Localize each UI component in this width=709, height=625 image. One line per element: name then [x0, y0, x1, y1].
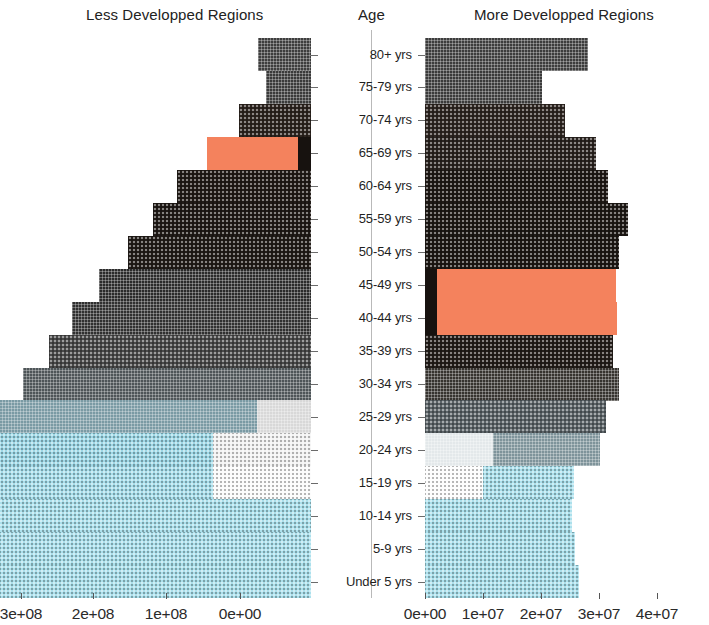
bar-left	[0, 400, 311, 433]
y-tick-left	[311, 252, 318, 253]
y-tick-right	[418, 186, 425, 187]
bar-right	[425, 203, 628, 236]
y-tick-right	[418, 516, 425, 517]
bar-right	[425, 368, 619, 401]
bar-left	[0, 532, 311, 565]
y-tick-left	[311, 153, 318, 154]
bar-segment	[493, 433, 600, 466]
bar-segment	[425, 71, 542, 104]
age-label: 35-39 yrs	[312, 343, 412, 358]
bar-segment	[239, 104, 311, 137]
y-tick-left	[311, 483, 318, 484]
bar-segment	[483, 466, 574, 499]
bar-segment	[258, 38, 311, 71]
bar-right	[425, 400, 606, 433]
bar-left	[128, 236, 311, 269]
age-label: 55-59 yrs	[312, 211, 412, 226]
age-label: 60-64 yrs	[312, 178, 412, 193]
age-label: 45-49 yrs	[312, 277, 412, 292]
right-axis-tick	[425, 593, 426, 599]
bar-segment	[425, 104, 565, 137]
bar-left	[0, 565, 311, 598]
bar-segment	[266, 71, 311, 104]
bar-segment	[0, 565, 311, 598]
age-label: 5-9 yrs	[312, 541, 412, 556]
bar-segment	[437, 302, 617, 335]
y-tick-right	[418, 153, 425, 154]
bar-segment	[72, 302, 311, 335]
y-tick-left	[311, 417, 318, 418]
right-axis-tick	[657, 593, 658, 599]
bar-left	[23, 368, 311, 401]
left-axis-tick	[21, 593, 22, 599]
bar-segment	[207, 137, 298, 170]
bar-segment	[0, 400, 257, 433]
y-tick-right	[418, 483, 425, 484]
bar-left	[266, 71, 311, 104]
right-axis-tick	[599, 593, 600, 599]
y-tick-right	[418, 285, 425, 286]
y-tick-right	[418, 384, 425, 385]
y-tick-right	[418, 351, 425, 352]
bar-segment	[99, 269, 311, 302]
left-panel-title: Less Developped Regions	[86, 6, 263, 23]
bar-segment	[425, 335, 613, 368]
y-tick-left	[311, 384, 318, 385]
bar-segment	[425, 400, 606, 433]
y-tick-left	[311, 549, 318, 550]
bar-left	[72, 302, 311, 335]
bar-segment	[177, 170, 311, 203]
bar-segment	[213, 433, 311, 466]
bar-segment	[0, 466, 213, 499]
bar-segment	[298, 137, 311, 170]
bar-right	[425, 302, 617, 335]
bar-left	[239, 104, 311, 137]
age-label: 80+ yrs	[312, 47, 412, 62]
left-axis-tick-label: 3e+08	[0, 605, 54, 623]
y-tick-right	[418, 55, 425, 56]
age-label: 30-34 yrs	[312, 376, 412, 391]
right-axis-tick-label: 4e+07	[624, 605, 690, 623]
y-tick-right	[418, 120, 425, 121]
bar-segment	[425, 203, 628, 236]
bar-left	[153, 203, 311, 236]
y-tick-right	[418, 318, 425, 319]
bar-right	[425, 170, 608, 203]
bar-segment	[425, 137, 596, 170]
age-label: 15-19 yrs	[312, 475, 412, 490]
bar-right	[425, 71, 542, 104]
bar-segment	[49, 335, 311, 368]
bar-left	[258, 38, 311, 71]
bar-segment	[257, 400, 311, 433]
age-label: 70-74 yrs	[312, 112, 412, 127]
y-tick-left	[311, 120, 318, 121]
age-label: 10-14 yrs	[312, 508, 412, 523]
y-tick-left	[311, 87, 318, 88]
right-panel-title: More Developped Regions	[474, 6, 654, 23]
right-axis-tick-label: 2e+07	[508, 605, 574, 623]
bar-right	[425, 565, 579, 598]
right-axis-tick-label: 0e+00	[392, 605, 458, 623]
y-tick-left	[311, 219, 318, 220]
y-tick-right	[418, 417, 425, 418]
y-tick-left	[311, 450, 318, 451]
y-tick-left	[311, 318, 318, 319]
y-tick-right	[418, 582, 425, 583]
bar-right	[425, 335, 613, 368]
bar-left	[99, 269, 311, 302]
bar-segment	[425, 170, 608, 203]
y-tick-right	[418, 219, 425, 220]
bar-right	[425, 269, 616, 302]
bar-right	[425, 466, 574, 499]
bar-right	[425, 532, 575, 565]
bar-right	[425, 104, 565, 137]
bar-left	[0, 433, 311, 466]
bar-segment	[425, 499, 572, 532]
bar-segment	[425, 532, 575, 565]
bar-segment	[153, 203, 311, 236]
left-axis-tick-label: 1e+08	[133, 605, 199, 623]
bar-segment	[23, 368, 311, 401]
left-axis-tick-label: 2e+08	[60, 605, 126, 623]
left-axis-tick	[240, 593, 241, 599]
y-tick-left	[311, 55, 318, 56]
